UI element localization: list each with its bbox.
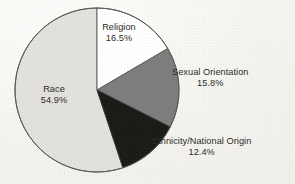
slice-label-religion: Religion 16.5% — [84, 22, 154, 45]
slice-label-race-name: Race — [43, 84, 65, 94]
slice-label-religion-name: Religion — [102, 22, 136, 32]
slice-label-ethnicity-value: 12.4% — [152, 147, 251, 158]
slice-label-religion-value: 16.5% — [84, 33, 154, 44]
slice-label-ethnicity: Ethnicity/National Origin 12.4% — [152, 136, 251, 159]
slice-label-race: Race 54.9% — [18, 84, 90, 107]
slice-label-race-value: 54.9% — [18, 95, 90, 106]
slice-label-sexual-orientation: Sexual Orientation 15.8% — [172, 67, 249, 90]
pie-chart-figure: Religion 16.5% Sexual Orientation 15.8% … — [0, 0, 295, 184]
slice-label-ethnicity-name: Ethnicity/National Origin — [152, 136, 251, 146]
slice-label-sexual-orientation-value: 15.8% — [172, 78, 249, 89]
slice-label-sexual-orientation-name: Sexual Orientation — [172, 67, 249, 77]
